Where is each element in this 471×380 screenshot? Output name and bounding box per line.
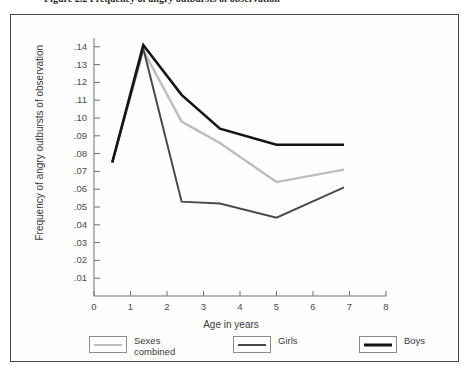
y-tick-label: .07 [61, 165, 87, 176]
y-tick-label: .12 [61, 76, 87, 87]
legend-label-girls: Girls [278, 335, 298, 346]
figure-frame: Frequency of angry outbursts of observat… [10, 14, 459, 362]
x-tick-label: 5 [269, 301, 285, 312]
y-tick-label: .13 [61, 59, 87, 70]
chart-plot-area: Frequency of angry outbursts of observat… [11, 15, 460, 363]
y-axis-title: Frequency of angry outbursts of observat… [34, 61, 45, 241]
x-tick-label: 7 [342, 301, 358, 312]
x-tick-label: 3 [196, 301, 212, 312]
legend-label-boys: Boys [404, 335, 425, 346]
figure-caption-strip: Figure 2.2 Frequency of angry outbursts … [0, 0, 471, 13]
figure-caption: Figure 2.2 Frequency of angry outbursts … [44, 0, 280, 4]
x-tick-label: 4 [232, 301, 248, 312]
legend-swatch-girls [233, 336, 271, 353]
x-tick-label: 0 [86, 301, 102, 312]
series-group [112, 45, 344, 218]
legend-item-sexes-combined[interactable]: Sexes combined [89, 335, 175, 357]
y-tick-label: .06 [61, 183, 87, 194]
legend-label-sexes-combined: Sexes combined [134, 335, 175, 357]
y-tick-label: .05 [61, 201, 87, 212]
y-tick-label: .03 [61, 237, 87, 248]
x-tick-label: 1 [123, 301, 139, 312]
y-tick-label: .02 [61, 254, 87, 265]
y-tick-label: .11 [61, 94, 87, 105]
y-tick-label: .01 [61, 272, 87, 283]
x-tick-label: 6 [305, 301, 321, 312]
y-tick-label: .14 [61, 41, 87, 52]
y-tick-label: .04 [61, 219, 87, 230]
x-tick-label: 8 [378, 301, 394, 312]
legend-swatch-sexes-combined [89, 336, 127, 353]
x-axis-title: Age in years [161, 319, 301, 330]
y-tick-label: .10 [61, 112, 87, 123]
series-line-girls [112, 49, 344, 218]
y-tick-label: .09 [61, 130, 87, 141]
legend-swatch-boys [359, 336, 397, 353]
legend-item-boys[interactable]: Boys [359, 335, 425, 353]
axes-group [94, 38, 386, 296]
y-tick-label: .08 [61, 148, 87, 159]
legend-item-girls[interactable]: Girls [233, 335, 298, 353]
chart-legend: Sexes combined Girls Boys [11, 333, 460, 373]
series-line-sexes-combined [112, 50, 344, 182]
x-tick-label: 2 [159, 301, 175, 312]
